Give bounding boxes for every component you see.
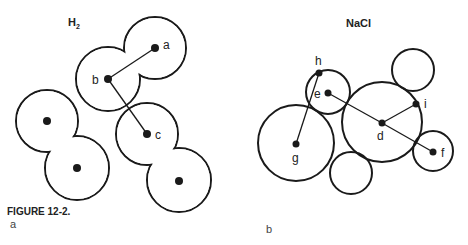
- atom-left-2: [73, 164, 81, 172]
- h2-molecule-right: [116, 103, 211, 212]
- bond-e-d: [328, 93, 382, 123]
- label-a: a: [163, 38, 170, 52]
- bond-d-f: [382, 123, 433, 152]
- figure-canvas: H2 a b c NaCl: [0, 0, 468, 245]
- panel-b-label: b: [266, 223, 272, 235]
- atom-f: [430, 149, 437, 156]
- panel-a-title: H2: [68, 16, 80, 30]
- label-c: c: [155, 128, 161, 142]
- ion-top-right-sphere: [392, 49, 434, 91]
- atom-g: [293, 141, 300, 148]
- figure-caption: FIGURE 12-2.: [7, 206, 71, 217]
- atom-i: [413, 101, 420, 108]
- atom-b: [104, 75, 112, 83]
- label-g: g: [292, 151, 299, 165]
- ion-bottom-sphere: [330, 152, 372, 194]
- label-b: b: [92, 73, 99, 87]
- nacl-ions: [258, 49, 453, 194]
- atom-a: [151, 44, 159, 52]
- bond-d-i: [382, 104, 416, 123]
- atom-left-1: [43, 117, 51, 125]
- label-i: i: [424, 97, 427, 111]
- panel-a-label: a: [10, 218, 17, 230]
- atom-d: [379, 120, 386, 127]
- atom-right-2: [175, 177, 183, 185]
- label-e: e: [314, 87, 321, 101]
- panel-b-title: NaCl: [346, 17, 371, 29]
- atom-c: [143, 130, 151, 138]
- label-f: f: [441, 146, 445, 160]
- atom-h: [316, 70, 323, 77]
- atom-e: [325, 90, 332, 97]
- label-d: d: [377, 129, 384, 143]
- label-h: h: [315, 54, 322, 68]
